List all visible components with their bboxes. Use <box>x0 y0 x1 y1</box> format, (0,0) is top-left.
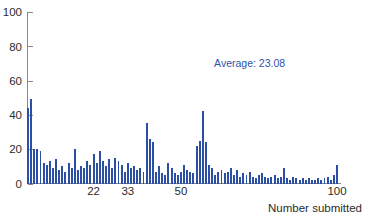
histogram-bar <box>267 178 269 183</box>
x-tick-label: 50 <box>175 185 188 197</box>
histogram-bar <box>171 168 173 183</box>
histogram-bar <box>183 165 185 184</box>
histogram-bar <box>249 172 251 184</box>
x-axis-title: Number submitted <box>268 202 362 214</box>
histogram-bar <box>130 168 132 183</box>
histogram-bar <box>289 180 291 183</box>
histogram-bar <box>93 154 95 183</box>
histogram-bar <box>311 180 313 183</box>
histogram-bar <box>55 159 57 183</box>
histogram-bar <box>270 177 272 184</box>
histogram-figure: 020406080100 223350100 Average: 23.08 Nu… <box>0 0 369 216</box>
histogram-bar <box>36 149 38 183</box>
histogram-bar <box>211 168 213 183</box>
histogram-bar <box>314 180 316 183</box>
histogram-bar <box>61 166 63 183</box>
histogram-bar <box>330 180 332 183</box>
histogram-bar <box>96 163 98 184</box>
histogram-bar <box>146 123 148 183</box>
y-tick-label: 60 <box>9 75 22 87</box>
histogram-bar <box>320 180 322 183</box>
histogram-bar <box>124 172 126 184</box>
histogram-bar <box>121 165 123 184</box>
histogram-bar <box>239 177 241 184</box>
histogram-bar <box>224 173 226 183</box>
histogram-bar <box>221 170 223 184</box>
histogram-bar <box>111 168 113 183</box>
histogram-bar <box>52 168 54 183</box>
y-tick-label: 100 <box>3 6 22 18</box>
histogram-bar <box>233 175 235 184</box>
histogram-bar <box>133 166 135 183</box>
histogram-bar <box>227 172 229 184</box>
x-tick-label: 22 <box>87 185 100 197</box>
histogram-bar <box>86 161 88 183</box>
y-tick-label: 80 <box>9 41 22 53</box>
histogram-bar <box>205 142 207 183</box>
histogram-bar <box>236 170 238 184</box>
histogram-bar <box>214 175 216 184</box>
histogram-bar <box>308 178 310 183</box>
histogram-bar <box>43 163 45 184</box>
histogram-bar <box>46 165 48 184</box>
histogram-bar <box>30 99 32 183</box>
histogram-bar <box>217 172 219 184</box>
histogram-bar <box>261 173 263 183</box>
histogram-bar <box>192 173 194 183</box>
histogram-bar <box>155 172 157 184</box>
histogram-bar <box>292 177 294 184</box>
histogram-bar <box>242 173 244 183</box>
histogram-bar <box>252 177 254 184</box>
histogram-bar <box>317 178 319 183</box>
histogram-bar <box>99 151 101 184</box>
histogram-bar <box>295 178 297 183</box>
histogram-bar <box>258 175 260 184</box>
histogram-bar <box>336 165 338 184</box>
histogram-bar <box>199 141 201 184</box>
histogram-bar <box>74 149 76 183</box>
histogram-bar <box>324 178 326 183</box>
histogram-bar <box>158 166 160 183</box>
histogram-bar <box>255 178 257 183</box>
histogram-bar <box>164 175 166 184</box>
histogram-bar <box>40 151 42 184</box>
histogram-bar <box>299 180 301 183</box>
histogram-bar <box>118 161 120 183</box>
histogram-bar <box>27 108 29 183</box>
histogram-bar <box>83 168 85 183</box>
histogram-bar <box>33 149 35 183</box>
histogram-bar <box>89 165 91 184</box>
histogram-bar <box>277 178 279 183</box>
histogram-bar <box>180 172 182 184</box>
histogram-bar <box>149 139 151 184</box>
histogram-bar <box>105 166 107 183</box>
histogram-bar <box>49 161 51 183</box>
histogram-bar <box>161 173 163 183</box>
y-tick-label: 0 <box>16 178 22 190</box>
x-axis-ticks: 223350100 <box>87 185 346 197</box>
histogram-bar <box>186 170 188 184</box>
histogram-bar <box>327 177 329 184</box>
histogram-bar <box>143 172 145 184</box>
histogram-bar <box>167 163 169 184</box>
bar-series <box>27 99 338 183</box>
histogram-bar <box>68 163 70 184</box>
x-tick-label: 33 <box>121 185 134 197</box>
histogram-bar <box>58 170 60 184</box>
histogram-bar <box>77 170 79 184</box>
histogram-bar <box>177 175 179 184</box>
histogram-bar <box>196 146 198 184</box>
histogram-bar <box>305 180 307 183</box>
y-tick-label: 40 <box>9 109 22 121</box>
histogram-bar <box>64 172 66 184</box>
histogram-bar <box>202 111 204 183</box>
histogram-bar <box>174 173 176 183</box>
histogram-bar <box>286 178 288 183</box>
histogram-bar <box>246 175 248 184</box>
histogram-bar <box>71 168 73 183</box>
histogram-bar <box>114 158 116 184</box>
histogram-bar <box>102 161 104 183</box>
histogram-bar <box>333 175 335 184</box>
x-tick-label: 100 <box>327 185 346 197</box>
y-tick-label: 20 <box>9 143 22 155</box>
